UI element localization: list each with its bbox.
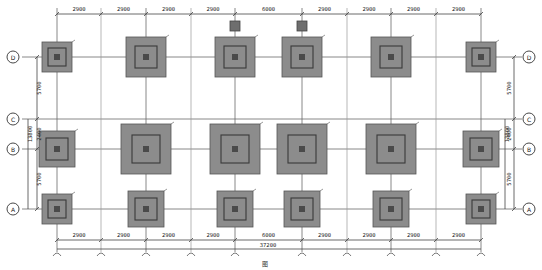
footing-D: [466, 40, 499, 72]
leader-mark: [171, 122, 174, 124]
footing-A: [466, 192, 499, 224]
leader-mark: [327, 122, 330, 124]
pier: [230, 21, 240, 31]
leader-mark: [499, 129, 502, 131]
bottom-dimension-label: 2900: [72, 232, 85, 238]
leader-mark: [253, 189, 256, 191]
column: [478, 206, 484, 212]
leader-mark: [320, 189, 323, 191]
footing-D: [371, 35, 414, 77]
foundation-plan-drawing: DDCCBBAA 2900290029002900290029002900290…: [0, 0, 542, 270]
leader-mark: [416, 122, 419, 124]
axis-foot-mark: [298, 253, 306, 256]
right-dimension-label: 5700: [506, 172, 512, 185]
left-total-label: 13800: [27, 126, 33, 143]
bottom-dimension-label: 2900: [407, 232, 420, 238]
column: [388, 54, 394, 60]
bottom-dimension-label: 6000: [262, 232, 275, 238]
leader-mark: [166, 35, 169, 37]
axis-foot-mark: [343, 253, 351, 256]
axis-foot-mark: [477, 253, 485, 256]
leader-mark: [496, 192, 499, 194]
leader-mark: [260, 122, 263, 124]
footing-A: [373, 189, 412, 227]
top-dimension-label: 2900: [72, 6, 85, 12]
axis-label: B: [11, 146, 15, 153]
top-dimension-label: 2900: [318, 6, 331, 12]
axis-foot-mark: [231, 253, 239, 256]
column: [54, 206, 60, 212]
dimension-labels: 2900290029002900290029002900290060006000…: [27, 6, 512, 248]
column: [232, 54, 238, 60]
axis-foot-mark: [97, 253, 105, 256]
left-dimension-label: 5700: [36, 172, 42, 185]
leader-mark: [496, 40, 499, 42]
axis-foot-mark: [387, 253, 395, 256]
footing-B: [121, 122, 174, 174]
axis-foot-mark: [142, 253, 150, 256]
top-dimension-label: 2900: [206, 6, 219, 12]
top-dimension-label: 2900: [407, 6, 420, 12]
bottom-dimension-label: 2900: [452, 232, 465, 238]
footing-A: [42, 192, 75, 224]
top-dimension-label: 2900: [162, 6, 175, 12]
right-dimension-label: 5700: [506, 81, 512, 94]
leader-mark: [409, 189, 412, 191]
column: [143, 146, 149, 152]
top-dimension-label: 2900: [362, 6, 375, 12]
total-dimension-label: 37200: [260, 242, 277, 248]
bottom-dimension-label: 2900: [362, 232, 375, 238]
column: [54, 54, 60, 60]
footings: [39, 21, 502, 227]
axis-foot-mark: [187, 253, 195, 256]
column: [143, 54, 149, 60]
axis-label: C: [11, 116, 15, 123]
bottom-dimension-label: 2900: [206, 232, 219, 238]
axis-label: B: [527, 146, 531, 153]
column: [143, 206, 149, 212]
top-dimension-label: 2900: [117, 6, 130, 12]
axis-foot-mark: [53, 253, 61, 256]
column: [299, 206, 305, 212]
footing-B: [277, 122, 330, 174]
pier: [297, 21, 307, 31]
left-dimension-label: 2400: [36, 127, 42, 140]
axis-bubbles: DDCCBBAA: [7, 51, 535, 215]
footing-B: [210, 122, 263, 174]
leader-mark: [322, 35, 325, 37]
top-dimension-label: 6000: [262, 6, 275, 12]
right-total-label: 13800: [504, 126, 510, 143]
footing-A: [128, 189, 167, 227]
column: [478, 54, 484, 60]
column: [54, 146, 60, 152]
drawing-title: 图: [262, 260, 268, 268]
axis-label: C: [527, 116, 531, 123]
column: [299, 146, 305, 152]
column: [388, 146, 394, 152]
footing-A: [284, 189, 323, 227]
leader-mark: [72, 40, 75, 42]
leader-mark: [75, 129, 78, 131]
bottom-dimension-label: 2900: [162, 232, 175, 238]
footing-D: [215, 35, 258, 77]
leader-mark: [411, 35, 414, 37]
footing-D: [126, 35, 169, 77]
footing-D: [42, 40, 75, 72]
footing-D: [282, 35, 325, 77]
footing-B: [366, 122, 419, 174]
left-dimension-label: 5700: [36, 81, 42, 94]
bottom-dimension-label: 2900: [318, 232, 331, 238]
column: [232, 206, 238, 212]
axis-label: D: [11, 54, 16, 61]
leader-mark: [255, 35, 258, 37]
column: [299, 54, 305, 60]
leader-mark: [164, 189, 167, 191]
footing-B: [463, 129, 502, 167]
leader-mark: [72, 192, 75, 194]
column: [478, 146, 484, 152]
footing-A: [217, 189, 256, 227]
column: [232, 146, 238, 152]
axis-foot-mark: [432, 253, 440, 256]
axis-label: D: [527, 54, 532, 61]
top-dimension-label: 2900: [452, 6, 465, 12]
